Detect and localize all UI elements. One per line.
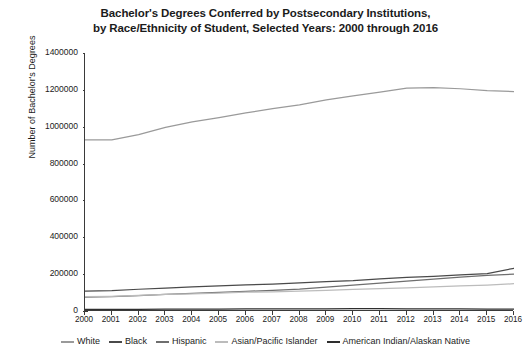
x-tick-mark bbox=[325, 311, 326, 315]
legend-item[interactable]: Asian/Pacific Islander bbox=[215, 336, 317, 347]
legend-label: American Indian/Alaskan Native bbox=[343, 336, 471, 347]
series-line bbox=[85, 284, 514, 297]
legend-item[interactable]: American Indian/Alaskan Native bbox=[327, 336, 471, 347]
x-tick-mark bbox=[379, 311, 380, 315]
legend-item[interactable]: Black bbox=[109, 336, 147, 347]
x-tick-mark bbox=[513, 311, 514, 315]
series-line bbox=[85, 274, 514, 297]
y-tick-label: 1400000 bbox=[18, 47, 78, 57]
y-tick-label: 400000 bbox=[18, 231, 78, 241]
y-tick-label: 1200000 bbox=[18, 84, 78, 94]
chart-legend: WhiteBlackHispanicAsian/Pacific Islander… bbox=[0, 336, 531, 347]
x-tick-label: 2016 bbox=[496, 315, 530, 324]
legend-swatch-icon bbox=[327, 341, 340, 343]
y-tick-label: 1000000 bbox=[18, 121, 78, 131]
legend-item[interactable]: Hispanic bbox=[156, 336, 207, 347]
x-tick-mark bbox=[272, 311, 273, 315]
y-tick-label: 200000 bbox=[18, 268, 78, 278]
series-lines bbox=[85, 53, 514, 311]
chart-container: Bachelor's Degrees Conferred by Postseco… bbox=[0, 0, 531, 357]
legend-label: Black bbox=[125, 336, 147, 347]
x-tick-mark bbox=[433, 311, 434, 315]
legend-label: Hispanic bbox=[172, 336, 207, 347]
legend-swatch-icon bbox=[215, 341, 228, 343]
legend-swatch-icon bbox=[156, 341, 169, 343]
x-tick-mark bbox=[138, 311, 139, 315]
chart-title-line-1: Bachelor's Degrees Conferred by Postseco… bbox=[101, 7, 431, 19]
plot-area bbox=[84, 53, 513, 311]
x-tick-mark bbox=[111, 311, 112, 315]
series-line bbox=[85, 309, 514, 310]
series-line bbox=[85, 88, 514, 140]
x-tick-mark bbox=[352, 311, 353, 315]
x-tick-mark bbox=[84, 311, 85, 315]
x-tick-mark bbox=[245, 311, 246, 315]
legend-swatch-icon bbox=[61, 341, 74, 343]
series-line bbox=[85, 268, 514, 291]
y-tick-label: 600000 bbox=[18, 194, 78, 204]
legend-item[interactable]: White bbox=[61, 336, 100, 347]
y-tick-label: 0 bbox=[18, 305, 78, 315]
x-tick-mark bbox=[164, 311, 165, 315]
x-tick-mark bbox=[406, 311, 407, 315]
x-tick-mark bbox=[459, 311, 460, 315]
y-tick-label: 800000 bbox=[18, 158, 78, 168]
x-tick-mark bbox=[218, 311, 219, 315]
legend-label: White bbox=[77, 336, 100, 347]
x-tick-mark bbox=[299, 311, 300, 315]
legend-label: Asian/Pacific Islander bbox=[231, 336, 317, 347]
x-tick-mark bbox=[486, 311, 487, 315]
legend-swatch-icon bbox=[109, 341, 122, 343]
x-tick-mark bbox=[191, 311, 192, 315]
chart-title: Bachelor's Degrees Conferred by Postseco… bbox=[0, 6, 531, 36]
chart-title-line-2: by Race/Ethnicity of Student, Selected Y… bbox=[0, 21, 531, 36]
